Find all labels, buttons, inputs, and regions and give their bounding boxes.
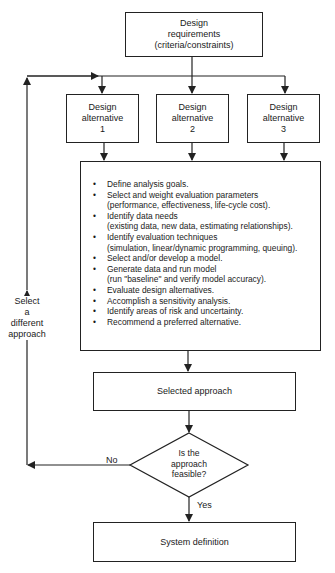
system-definition-label: System definition	[160, 537, 229, 548]
analysis-step: Select and/or develop a model.	[93, 253, 314, 264]
analysis-step: Define analysis goals.	[93, 179, 314, 190]
yes-label: Yes	[197, 500, 212, 511]
alternative-3-box: Design alternative 3	[247, 94, 320, 143]
analysis-step: Accomplish a sensitivity analysis.	[93, 296, 314, 307]
alternative-2-box: Design alternative 2	[156, 94, 229, 143]
no-label: No	[106, 455, 118, 466]
analysis-step: Identify evaluation techniques (simulati…	[93, 232, 314, 253]
alternative-3-label: Design alternative 3	[263, 102, 305, 135]
requirements-label: Design requirements (criteria/constraint…	[154, 18, 233, 51]
alternative-1-label: Design alternative 1	[82, 102, 124, 135]
analysis-step: Select and weight evaluation parameters …	[93, 190, 314, 211]
analysis-step: Evaluate design alternatives.	[93, 285, 314, 296]
analysis-step: Generate data and run model (run "baseli…	[93, 264, 314, 285]
analysis-step: Identify data needs (existing data, new …	[93, 211, 314, 232]
requirements-box: Design requirements (criteria/constraint…	[125, 12, 263, 57]
analysis-step: Recommend a preferred alternative.	[93, 317, 314, 328]
analysis-steps-list: Define analysis goals. Select and weight…	[93, 179, 314, 327]
selected-approach-box: Selected approach	[93, 372, 296, 411]
analysis-step: Identify areas of risk and uncertainty.	[93, 306, 314, 317]
loop-label: Select a different approach	[2, 296, 52, 340]
alternative-2-label: Design alternative 2	[172, 102, 214, 135]
system-definition-box: System definition	[93, 522, 296, 562]
analysis-box: Define analysis goals. Select and weight…	[80, 161, 321, 351]
decision-label: Is the approach feasible?	[150, 448, 228, 480]
alternative-1-box: Design alternative 1	[66, 94, 139, 143]
selected-approach-label: Selected approach	[157, 386, 232, 397]
